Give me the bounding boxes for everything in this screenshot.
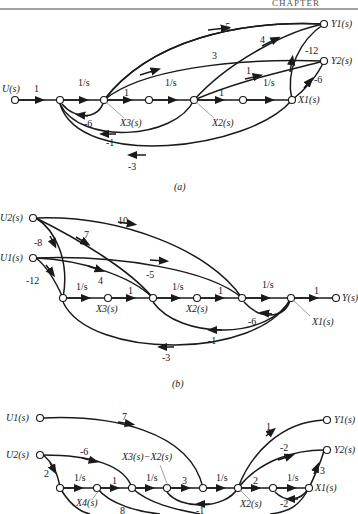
svg-text:U1(s): U1(s) — [0, 252, 23, 264]
svg-text:1/s: 1/s — [76, 281, 88, 292]
svg-text:-1: -1 — [196, 505, 204, 514]
svg-text:-12: -12 — [305, 45, 318, 56]
svg-text:2: 2 — [253, 475, 258, 486]
node-c-x1 — [306, 485, 313, 492]
svg-text:-5: -5 — [222, 21, 230, 32]
svg-text:X3(s): X3(s) — [119, 117, 142, 129]
svg-text:1: 1 — [128, 285, 133, 296]
node-c-mid1 — [129, 485, 136, 492]
node-b-x3 — [105, 295, 112, 302]
svg-text:-12: -12 — [26, 275, 39, 286]
svg-text:-2: -2 — [280, 442, 288, 453]
svg-text:3: 3 — [182, 475, 187, 486]
svg-text:1: 1 — [246, 65, 251, 76]
svg-text:1: 1 — [34, 83, 39, 94]
svg-text:1: 1 — [266, 421, 271, 432]
caption-a: (a) — [174, 181, 186, 193]
svg-text:Y1(s): Y1(s) — [334, 414, 356, 426]
svg-text:1: 1 — [124, 87, 129, 98]
edge-b-u1-sum — [36, 258, 63, 298]
node-b-u1 — [30, 255, 37, 262]
node-b-mid1 — [150, 295, 157, 302]
svg-text:1/s: 1/s — [165, 77, 177, 88]
node-b-x2 — [194, 295, 201, 302]
signal-flow-graphs: CHAPTER — [0, 0, 358, 514]
node-a-sum — [57, 97, 64, 104]
svg-text:X2(s): X2(s) — [239, 498, 262, 510]
node-c-y2 — [324, 447, 331, 454]
svg-text:8: 8 — [120, 505, 125, 514]
svg-text:U2(s): U2(s) — [6, 449, 29, 461]
edge-b-fb-1 — [244, 298, 291, 315]
svg-text:X1(s): X1(s) — [311, 316, 334, 328]
svg-text:1: 1 — [314, 285, 319, 296]
svg-text:1/s: 1/s — [146, 472, 158, 483]
svg-text:-1: -1 — [106, 137, 114, 148]
node-c-sum — [57, 485, 64, 492]
svg-text:X4(s): X4(s) — [75, 497, 98, 509]
svg-text:Y(s): Y(s) — [342, 292, 358, 304]
node-a-mid2 — [240, 97, 247, 104]
svg-text:-1: -1 — [208, 335, 216, 346]
figure-c: U1(s) U2(s) 7 -6 2 1/s 1 1/s 3 1/s 2 1/s… — [6, 411, 356, 514]
svg-text:4: 4 — [98, 275, 103, 286]
svg-text:X3(s)−X2(s): X3(s)−X2(s) — [121, 451, 173, 463]
svg-text:-2: -2 — [280, 498, 288, 509]
svg-text:3: 3 — [212, 50, 217, 61]
svg-text:1/s: 1/s — [172, 281, 184, 292]
node-a-mid1 — [146, 97, 153, 104]
node-c-u1 — [37, 415, 44, 422]
node-a-x1 — [289, 97, 296, 104]
svg-text:7: 7 — [84, 229, 89, 240]
svg-text:1: 1 — [219, 87, 224, 98]
edge-c-x2-y1 — [238, 420, 324, 488]
svg-text:1/s: 1/s — [263, 77, 275, 88]
edge-a-fb-x3 — [62, 100, 104, 116]
edge-a-fb-x1 — [60, 100, 292, 146]
svg-text:2: 2 — [44, 468, 49, 479]
svg-text:1: 1 — [112, 475, 117, 486]
svg-text:Y2(s): Y2(s) — [334, 444, 356, 456]
svg-text:-3: -3 — [162, 352, 170, 363]
node-b-y — [333, 295, 340, 302]
node-c-x4 — [94, 485, 101, 492]
caption-b: (b) — [172, 378, 184, 390]
svg-text:4: 4 — [260, 34, 265, 45]
running-header: CHAPTER — [272, 0, 320, 8]
edge-b-u1-late — [36, 258, 242, 298]
svg-text:X1(s): X1(s) — [297, 94, 320, 106]
svg-text:-6: -6 — [80, 446, 88, 457]
svg-text:1/s: 1/s — [74, 472, 86, 483]
svg-text:1/s: 1/s — [78, 77, 90, 88]
svg-text:-6: -6 — [84, 118, 92, 129]
svg-text:-6: -6 — [248, 316, 256, 327]
svg-text:10: 10 — [118, 215, 128, 226]
svg-text:X1(s): X1(s) — [314, 482, 337, 494]
svg-text:U2(s): U2(s) — [0, 212, 23, 224]
svg-text:X2(s): X2(s) — [185, 303, 208, 315]
svg-text:Y1(s): Y1(s) — [331, 18, 353, 30]
svg-text:-6: -6 — [314, 74, 322, 85]
node-a-y2 — [321, 58, 328, 65]
node-a-input — [12, 97, 19, 104]
svg-text:7: 7 — [122, 411, 127, 422]
svg-text:1: 1 — [218, 285, 223, 296]
figure-a: U(s) 1 1/s 1 1/s 1 1/s -5 3 4 1 -12 -6 -… — [2, 18, 353, 193]
node-b-u2 — [30, 215, 37, 222]
svg-text:-8: -8 — [34, 237, 42, 248]
node-a-y1 — [321, 21, 328, 28]
svg-text:1/s: 1/s — [216, 472, 228, 483]
node-c-y1 — [324, 417, 331, 424]
node-c-x3mx2 — [164, 485, 171, 492]
node-b-sum — [60, 295, 67, 302]
label-a-input: U(s) — [2, 83, 20, 95]
figure-b: U2(s) U1(s) -8 7 10 -12 4 -5 1/s 1 1/s 1… — [0, 212, 358, 390]
svg-text:1/s: 1/s — [262, 279, 274, 290]
node-b-mid2 — [239, 295, 246, 302]
node-c-u2 — [37, 452, 44, 459]
svg-text:-5: -5 — [146, 269, 154, 280]
svg-text:3: 3 — [320, 465, 325, 476]
svg-text:Y2(s): Y2(s) — [331, 55, 353, 67]
node-c-mid2 — [200, 485, 207, 492]
svg-text:X2(s): X2(s) — [211, 117, 234, 129]
